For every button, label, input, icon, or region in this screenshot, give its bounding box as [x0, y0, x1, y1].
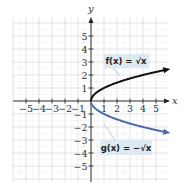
x-tick-label: −5: [19, 103, 33, 114]
g-label-leader-line: [104, 124, 115, 140]
coordinate-plane: −5−4−3−2−11234554321−1−2−3−4−5 f(x) = √x…: [0, 0, 188, 192]
x-tick-label: −3: [45, 103, 59, 114]
f-arrow-icon: [163, 67, 170, 73]
y-tick-label: −5: [73, 161, 87, 172]
y-tick-label: −4: [73, 148, 87, 159]
x-axis-arrow-icon: [164, 99, 170, 104]
x-tick-label: 4: [140, 103, 146, 114]
x-tick-label: 5: [153, 103, 159, 114]
graph-figure: −5−4−3−2−11234554321−1−2−3−4−5 f(x) = √x…: [0, 0, 188, 192]
y-tick-label: −1: [73, 109, 87, 120]
x-axis-label: x: [172, 95, 178, 106]
y-tick-label: 3: [81, 57, 87, 68]
x-tick-label: −4: [32, 103, 46, 114]
y-axis-arrow-icon: [89, 17, 94, 23]
x-tick-label: −2: [58, 103, 72, 114]
f-curve: [91, 70, 166, 101]
y-tick-label: −3: [73, 135, 87, 146]
y-tick-label: −2: [73, 122, 87, 133]
y-tick-label: 5: [81, 31, 87, 42]
g-label: g(x) = −√x: [101, 143, 152, 153]
x-tick-label: 2: [114, 103, 120, 114]
g-arrow-icon: [163, 129, 170, 135]
y-tick-label: 2: [81, 70, 87, 81]
y-tick-label: 4: [81, 44, 87, 55]
x-tick-label: 3: [127, 103, 133, 114]
f-label: f(x) = √x: [105, 56, 147, 66]
y-axis-label: y: [87, 3, 94, 14]
y-tick-label: 1: [81, 83, 87, 94]
